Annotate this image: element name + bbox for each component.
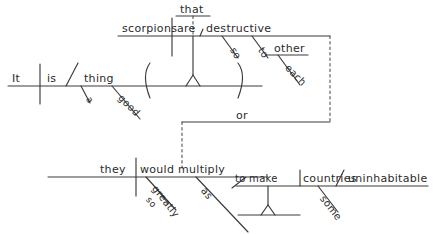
appositive-paren-left (146, 63, 151, 98)
main-predicate-nominative-slash (66, 63, 78, 86)
word-multiply: multiply (178, 164, 225, 175)
sentence-diagram: that scorpions are destructive so to oth… (0, 0, 436, 234)
word-to-make: to make (235, 174, 278, 184)
word-or: or (236, 110, 248, 121)
word-uninhabitable: uninhabitable (348, 173, 427, 184)
word-scorpions: scorpions (122, 23, 177, 34)
as-diagonal (196, 177, 248, 232)
word-they: they (100, 164, 126, 175)
appositive-paren-right (238, 63, 243, 98)
word-would: would (140, 164, 174, 175)
word-it: It (12, 73, 20, 84)
word-destructive: destructive (206, 23, 271, 34)
word-that: that (180, 4, 204, 15)
word-are: are (177, 23, 196, 34)
appositive-pedestal-triangle (186, 75, 200, 86)
infinitive-pedestal-triangle (261, 205, 275, 215)
diagram-lines (0, 0, 436, 234)
word-other: other (274, 43, 305, 54)
word-thing: thing (84, 73, 114, 84)
upper-verb-complement-divider (200, 29, 203, 36)
word-is: is (47, 73, 56, 84)
